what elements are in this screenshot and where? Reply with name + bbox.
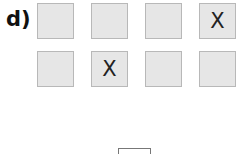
box-r2-c3[interactable] (145, 51, 182, 87)
box-r2-c1[interactable] (37, 51, 74, 87)
box-r1-c2[interactable] (91, 3, 128, 39)
box-r2-c2[interactable]: X (91, 51, 128, 87)
box-r1-c4[interactable]: X (199, 3, 236, 39)
answer-box[interactable] (118, 148, 151, 154)
exercise-label: d) (6, 6, 31, 32)
box-r1-c3[interactable] (145, 3, 182, 39)
box-r1-c1[interactable] (37, 3, 74, 39)
box-r2-c4[interactable] (199, 51, 236, 87)
